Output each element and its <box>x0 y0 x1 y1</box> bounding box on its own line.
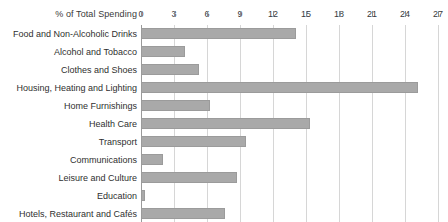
category-label: Clothes and Shoes <box>0 65 137 75</box>
bar <box>141 190 145 201</box>
bar <box>141 100 210 111</box>
bar-chart: % of Total Spending 0369121518212427 Foo… <box>0 0 448 222</box>
x-axis-title: % of Total Spending <box>0 9 137 19</box>
bar <box>141 172 237 183</box>
x-tick-mark-9 <box>240 11 241 17</box>
bar <box>141 154 163 165</box>
bar <box>141 46 185 57</box>
x-tick-mark-6 <box>207 11 208 17</box>
gridline-18 <box>339 25 340 222</box>
x-tick-mark-12 <box>273 11 274 17</box>
x-tick-mark-0 <box>141 11 142 17</box>
category-label: Home Furnishings <box>0 101 137 111</box>
category-label: Education <box>0 191 137 201</box>
gridline-24 <box>405 25 406 222</box>
category-label: Health Care <box>0 119 137 129</box>
category-label: Leisure and Culture <box>0 173 137 183</box>
gridline-27 <box>438 25 439 222</box>
category-label: Communications <box>0 155 137 165</box>
x-tick-mark-15 <box>306 11 307 17</box>
x-tick-mark-3 <box>174 11 175 17</box>
x-tick-mark-21 <box>372 11 373 17</box>
category-label: Hotels, Restaurant and Cafés <box>0 209 137 219</box>
x-tick-mark-27 <box>438 11 439 17</box>
bar <box>141 28 296 39</box>
x-tick-mark-24 <box>405 11 406 17</box>
category-label: Housing, Heating and Lighting <box>0 83 137 93</box>
bar <box>141 208 225 219</box>
x-tick-mark-18 <box>339 11 340 17</box>
bar <box>141 64 199 75</box>
bar <box>141 136 246 147</box>
category-label: Transport <box>0 137 137 147</box>
category-label: Food and Non-Alcoholic Drinks <box>0 29 137 39</box>
gridline-21 <box>372 25 373 222</box>
bar <box>141 82 418 93</box>
category-label: Alcohol and Tobacco <box>0 47 137 57</box>
plot-area <box>141 25 438 222</box>
bar <box>141 118 310 129</box>
